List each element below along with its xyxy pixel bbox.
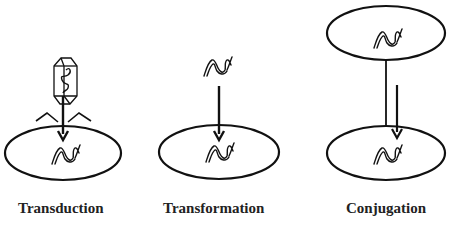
conjugation-panel [327, 6, 445, 180]
free-dna-icon [204, 57, 232, 76]
donor-cell [327, 6, 445, 60]
label-transduction: Transduction [18, 200, 104, 217]
dna-icon [206, 143, 234, 162]
dna-icon [52, 145, 80, 164]
transformation-panel [159, 57, 279, 179]
dna-icon [374, 145, 402, 164]
arrow-conjugation [392, 85, 402, 138]
label-transformation: Transformation [163, 200, 264, 217]
dna-icon [374, 29, 402, 48]
diagram-canvas [0, 0, 450, 226]
transduction-panel [5, 58, 121, 180]
label-conjugation: Conjugation [346, 200, 426, 217]
arrow-transformation [214, 86, 224, 140]
